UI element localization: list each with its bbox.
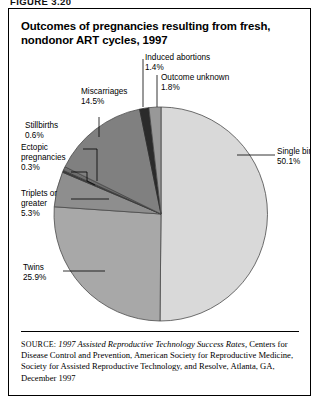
pie-label-single-births: Single births 50.1% (277, 147, 311, 167)
pie-label-outcome-unknown: Outcome unknown 1.8% (161, 73, 239, 93)
pie-label-induced-abortions: Induced abortions 1.4% (145, 53, 221, 73)
figure-page: FIGURE 3.20 Outcomes of pregnancies resu… (0, 0, 321, 403)
pie-label-ectopic: Ectopic pregnancies 0.3% (21, 143, 73, 172)
figure-number: FIGURE 3.20 (10, 0, 71, 5)
pie-slice-twins (54, 207, 161, 321)
source-divider (21, 331, 299, 332)
source-title: 1997 Assisted Reproductive Technology Su… (58, 339, 247, 349)
pie-slices (54, 107, 268, 321)
figure-box: Outcomes of pregnancies resulting from f… (8, 8, 311, 396)
pie-label-stillbirths: Stillbirths 0.6% (25, 121, 83, 141)
pie-chart: Single births 50.1% Twins 25.9% Triplets… (9, 9, 309, 394)
pie-label-twins: Twins 25.9% (23, 263, 69, 283)
source-label: SOURCE: (21, 340, 56, 349)
pie-label-miscarriages: Miscarriages 14.5% (81, 87, 143, 107)
pie-label-triplets: Triplets or greater 5.3% (21, 189, 71, 218)
pie-slice-single-births (160, 107, 268, 321)
source-note: SOURCE: 1997 Assisted Reproductive Techn… (21, 339, 301, 384)
